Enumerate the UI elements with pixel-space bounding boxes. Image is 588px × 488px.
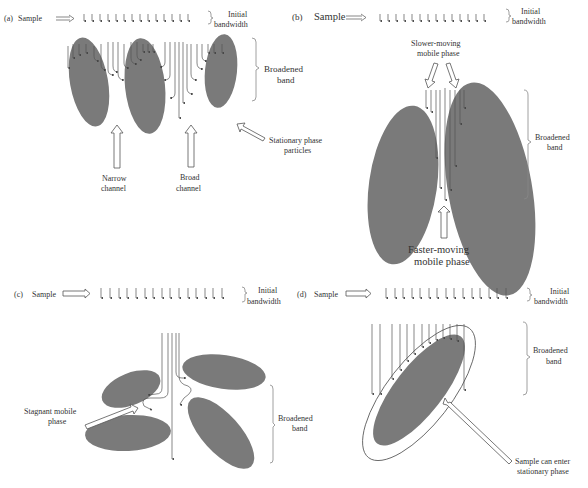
panel-a-initial-brace [208,11,213,24]
panel-c-id: (c) [14,290,23,299]
narrow-channel-arrow-icon [111,125,123,168]
panel-a-sample-band [84,14,188,21]
faster-mobile-phase-arrow-icon [438,206,450,238]
panel-c-broadened-brace [270,385,275,463]
panel-b-broadened-label-2: band [547,143,563,152]
panel-d-initial-label-2: bandwidth [534,297,568,306]
panel-b: (b) Sample Initial bandwidth Slower-movi… [292,7,570,303]
stagnant-mobile-phase-label-2: phase [48,417,67,426]
band-broadening-diagram: (a) Sample Initial bandwidth [0,0,588,488]
panel-d-id: (d) [297,290,307,299]
enter-stationary-phase-label-2: stationary phase [517,467,569,476]
panel-d-initial-label: Initial [550,287,570,296]
stationary-phase-arrow-icon [237,123,265,141]
panel-b-broadened-label: Broadened [535,133,570,142]
panel-b-initial-label: Initial [521,7,541,16]
stationary-particle [120,36,170,136]
panel-b-id: (b) [292,12,303,22]
enter-stationary-phase-arrow-icon [443,398,512,464]
panel-c-initial-label-2: bandwidth [247,297,281,306]
narrow-channel-label-2: channel [101,184,127,193]
panel-c-broadened-label-2: band [292,424,308,433]
stagnant-mobile-phase-label: Stagnant mobile [24,407,77,416]
broad-channel-label-2: channel [176,184,202,193]
slower-mobile-phase-label: Slower-moving [411,39,461,48]
panel-c-broadened-label: Broadened [278,414,313,423]
panel-a: (a) Sample Initial bandwidth [4,10,323,193]
panel-a-sample-label: Sample [18,14,42,23]
panel-c-sample-label: Sample [32,290,56,299]
slower-right-arrow-icon [446,63,459,88]
panel-a-initial-label-2: bandwidth [214,20,248,29]
panel-a-initial-label: Initial [228,10,248,19]
panel-c-initial-label: Initial [258,286,278,295]
enter-stationary-phase-label: Sample can enter [515,457,570,466]
stationary-particle [177,387,265,479]
panel-b-initial-brace [506,9,511,22]
stationary-particle [180,349,268,394]
panel-d-broadened-label: Broadened [533,346,568,355]
panel-b-sample-band [380,14,484,21]
narrow-channel-label: Narrow [102,174,127,183]
panel-d-sample-arrow-icon [346,289,371,298]
panel-d: (d) Sample Initial bandwidth [297,287,570,477]
panel-d-broadened-brace [523,322,530,395]
stationary-particle [84,413,172,453]
panel-b-sample-label: Sample [314,11,346,22]
panel-a-broadened-brace [252,38,259,101]
broad-channel-arrow-icon [185,125,197,167]
panel-a-broadened-label-2: band [277,75,295,85]
panel-d-broadened-label-2: band [546,357,562,366]
faster-mobile-phase-label-2: mobile phase [414,256,470,267]
slower-left-arrow-icon [425,63,438,88]
panel-a-id: (a) [4,14,13,23]
panel-c-sample-band [101,288,222,298]
stationary-particle [201,33,241,110]
panel-d-initial-brace [527,288,532,301]
panel-c-sample-arrow-icon [63,289,90,298]
panel-a-broadened-label: Broadened [264,64,303,74]
panel-d-sample-band [386,288,506,298]
stationary-particle [430,75,550,302]
stationary-phase-label-2: particles [284,146,311,155]
stationary-phase-label: Stationary phase [269,136,323,145]
panel-a-sample-arrow-icon [56,15,74,22]
panel-d-sample-label: Sample [314,290,338,299]
slower-mobile-phase-label-2: mobile phase [417,49,460,58]
broad-channel-label: Broad [180,173,200,182]
panel-c: (c) Sample Initial bandwidth [14,286,313,479]
panel-b-sample-arrow-icon [346,14,366,21]
stationary-particle [62,34,115,129]
panel-b-initial-label-2: bandwidth [512,17,546,26]
faster-mobile-phase-label: Faster-moving [408,244,470,255]
